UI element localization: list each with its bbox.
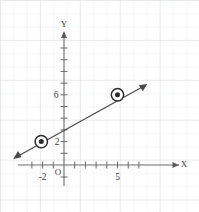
x-tick-label-5: 5 <box>115 172 120 182</box>
data-point-marker <box>111 89 123 101</box>
coordinate-plane-figure: X Y O -2 5 2 6 <box>0 0 199 212</box>
y-axis-label: Y <box>61 19 68 29</box>
x-axis-label: X <box>181 159 188 169</box>
y-tick-label-6: 6 <box>54 90 59 100</box>
x-tick-label-neg2: -2 <box>39 172 47 182</box>
background-grid <box>0 0 199 212</box>
data-point-marker <box>35 135 47 147</box>
origin-label: O <box>55 167 62 177</box>
graph-canvas: X Y O -2 5 2 6 <box>0 0 199 212</box>
y-tick-label-2: 2 <box>55 137 60 147</box>
